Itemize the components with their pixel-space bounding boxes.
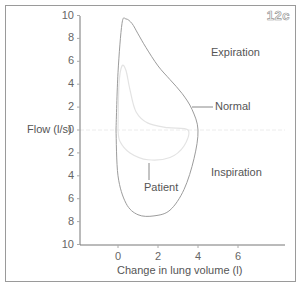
y-tick-label: 0	[68, 123, 74, 135]
y-tick-label: 4	[68, 169, 74, 181]
x-tick-label: 4	[195, 250, 201, 262]
patient-label: Patient	[144, 181, 178, 193]
y-tick-label: 2	[68, 146, 74, 158]
y-tick-label: 4	[68, 77, 74, 89]
flow-volume-plot	[0, 0, 308, 290]
y-tick-label: 8	[68, 215, 74, 227]
y-axis-label: Flow (l/s)	[27, 123, 72, 135]
y-tick-label: 6	[68, 54, 74, 66]
patient-curve	[118, 65, 189, 160]
x-tick-label: 2	[155, 250, 161, 262]
normal-label: Normal	[215, 100, 250, 112]
y-tick-label: 10	[62, 238, 74, 250]
expiration-label: Expiration	[211, 46, 260, 58]
x-tick-label: 0	[115, 250, 121, 262]
inspiration-label: Inspiration	[211, 166, 262, 178]
x-tick-label: 6	[235, 250, 241, 262]
y-tick-label: 6	[68, 192, 74, 204]
x-axis-label: Change in lung volume (l)	[117, 264, 242, 276]
y-tick-label: 2	[68, 100, 74, 112]
y-tick-label: 10	[62, 9, 74, 21]
y-tick-label: 8	[68, 31, 74, 43]
